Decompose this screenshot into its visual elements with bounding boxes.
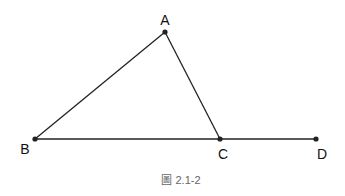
segment-BA (35, 32, 165, 139)
point-A (162, 29, 167, 34)
label-C: C (218, 146, 228, 162)
label-D: D (317, 146, 327, 162)
point-D (313, 136, 318, 141)
label-B: B (20, 141, 29, 157)
point-C (217, 136, 222, 141)
figure-caption: 圖 2.1-2 (161, 174, 200, 186)
geometry-figure: A B C D 圖 2.1-2 (0, 0, 345, 196)
segment-AC (165, 32, 220, 139)
point-B (32, 136, 37, 141)
label-A: A (160, 12, 170, 28)
